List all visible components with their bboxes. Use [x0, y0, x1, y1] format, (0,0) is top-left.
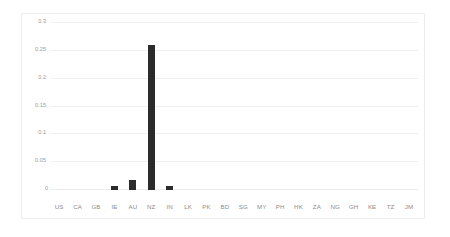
x-tick-slot: NG	[326, 195, 344, 213]
bar-slot	[345, 23, 363, 190]
x-axis-tick-label-CA: CA	[73, 203, 82, 210]
x-axis-tick-label-BD: BD	[220, 203, 229, 210]
x-tick-slot: GB	[87, 195, 105, 213]
x-tick-slot: JM	[400, 195, 418, 213]
bar-slot	[400, 23, 418, 190]
x-axis-tick-label-GH: GH	[349, 203, 358, 210]
y-axis-tick-label: 0.3	[38, 19, 46, 25]
x-tick-slot: SG	[234, 195, 252, 213]
x-axis-tick-label-LK: LK	[184, 203, 192, 210]
x-axis-tick-label-GB: GB	[91, 203, 100, 210]
bar-IN[interactable]	[166, 186, 173, 190]
bar-slot	[308, 23, 326, 190]
x-tick-slot: MY	[252, 195, 270, 213]
x-tick-slot: NZ	[142, 195, 160, 213]
bar-IE[interactable]	[111, 186, 118, 190]
x-tick-slot: BD	[216, 195, 234, 213]
x-axis-tick-labels: USCAGBIEAUNZINLKPKBDSGMYPHHKZANGGHKETZJM	[50, 198, 418, 210]
bar-slot	[105, 23, 123, 190]
bar-slot	[271, 23, 289, 190]
x-tick-slot: IN	[160, 195, 178, 213]
bar-slot	[363, 23, 381, 190]
x-axis-tick-label-JM: JM	[405, 203, 413, 210]
x-axis-tick-label-PH: PH	[276, 203, 285, 210]
bar-slot	[68, 23, 86, 190]
y-axis-tick-label: 0.2	[38, 75, 46, 81]
x-axis-tick-label-KE: KE	[368, 203, 376, 210]
y-axis-tick-label: 0.25	[35, 47, 46, 53]
y-axis-tick-label: 0.05	[35, 158, 46, 164]
bar-NZ[interactable]	[148, 45, 155, 190]
bar-slot	[160, 23, 178, 190]
x-axis-tick-label-NZ: NZ	[147, 203, 155, 210]
x-tick-slot: CA	[68, 195, 86, 213]
bar-slot	[381, 23, 399, 190]
x-tick-slot: ZA	[308, 195, 326, 213]
x-tick-slot: IE	[105, 195, 123, 213]
bar-slot	[234, 23, 252, 190]
bar-slot	[197, 23, 215, 190]
y-axis-zero-label: 0	[22, 186, 48, 192]
x-axis-tick-label-US: US	[55, 203, 64, 210]
bar-slot	[87, 23, 105, 190]
x-axis-tick-label-AU: AU	[128, 203, 137, 210]
bar-AU[interactable]	[129, 180, 136, 190]
x-axis-tick-label-TZ: TZ	[387, 203, 395, 210]
x-tick-slot: TZ	[381, 195, 399, 213]
x-axis-tick-label-SG: SG	[239, 203, 248, 210]
y-axis-tick-label: 0.15	[35, 103, 46, 109]
y-axis-tick-label: 0.1	[38, 131, 46, 137]
bar-slot	[326, 23, 344, 190]
x-axis-tick-label-IN: IN	[166, 203, 172, 210]
x-tick-slot: GH	[345, 195, 363, 213]
x-tick-slot: PH	[271, 195, 289, 213]
bars-layer	[50, 23, 418, 190]
x-axis-tick-label-IE: IE	[111, 203, 117, 210]
bar-slot	[252, 23, 270, 190]
x-tick-slot: PK	[197, 195, 215, 213]
x-axis-tick-label-ZA: ZA	[313, 203, 321, 210]
x-axis-tick-label-NG: NG	[331, 203, 340, 210]
x-axis-tick-label-HK: HK	[294, 203, 303, 210]
x-tick-slot: KE	[363, 195, 381, 213]
x-tick-slot: US	[50, 195, 68, 213]
bar-slot	[179, 23, 197, 190]
bar-slot	[289, 23, 307, 190]
x-tick-slot: AU	[124, 195, 142, 213]
bar-slot	[124, 23, 142, 190]
x-tick-slot: HK	[289, 195, 307, 213]
bar-slot	[50, 23, 68, 190]
plot-area: 0.050.10.150.20.250.3	[50, 23, 418, 190]
x-axis-tick-label-PK: PK	[202, 203, 210, 210]
x-axis-tick-label-MY: MY	[257, 203, 266, 210]
bar-slot	[142, 23, 160, 190]
bar-slot	[216, 23, 234, 190]
bar-chart-figure: 0.050.10.150.20.250.3 0 USCAGBIEAUNZINLK…	[21, 13, 425, 219]
x-tick-slot: LK	[179, 195, 197, 213]
